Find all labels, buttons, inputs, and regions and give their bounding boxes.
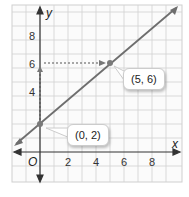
- y-tick-6: 6: [29, 58, 35, 70]
- x-tick-6: 6: [121, 156, 127, 168]
- x-axis-label: x: [171, 137, 179, 151]
- y-axis-label: y: [45, 6, 53, 20]
- coordinate-plane: O 2 4 6 8 8 6 4 x y: [0, 0, 189, 197]
- y-tick-4: 4: [29, 86, 35, 98]
- origin-label: O: [28, 155, 37, 169]
- x-tick-8: 8: [149, 156, 155, 168]
- x-tick-4: 4: [93, 156, 99, 168]
- point-label-5-6: (5, 6): [123, 68, 165, 90]
- point-5-6: [107, 60, 113, 66]
- x-tick-2: 2: [65, 156, 71, 168]
- point-label-0-2: (0, 2): [67, 124, 109, 146]
- y-tick-8: 8: [29, 30, 35, 42]
- point-0-2: [37, 121, 43, 127]
